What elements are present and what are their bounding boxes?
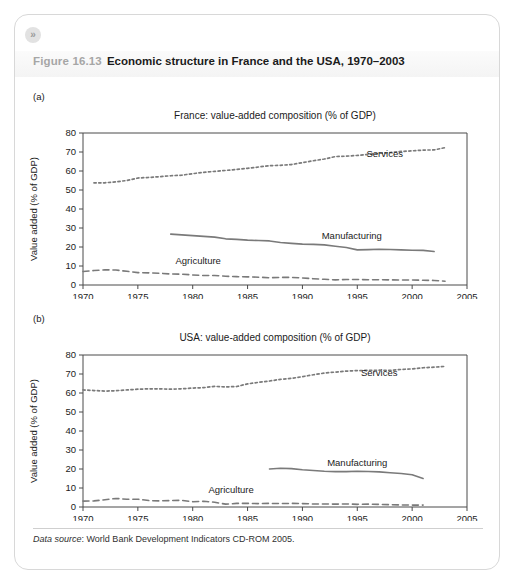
x-tick-label: 1970 — [72, 513, 93, 521]
chart-title: France: value-added composition (% of GD… — [174, 110, 376, 121]
figure-title-text: Economic structure in France and the USA… — [107, 55, 405, 67]
series-line — [83, 498, 423, 505]
y-tick-label: 50 — [65, 184, 76, 195]
x-tick-label: 1985 — [237, 291, 258, 299]
series-label: Manufacturing — [327, 457, 387, 468]
source-note: Data source: World Bank Development Indi… — [33, 534, 294, 544]
plot-frame — [83, 133, 467, 285]
y-tick-label: 70 — [65, 146, 76, 157]
series-label: Services — [366, 148, 403, 159]
chart-svg: USA: value-added composition (% of GDP)0… — [15, 321, 501, 521]
y-tick-label: 20 — [65, 463, 76, 474]
y-tick-label: 60 — [65, 387, 76, 398]
series-label: Agriculture — [175, 255, 220, 266]
series-label: Services — [361, 367, 398, 378]
chart-svg: France: value-added composition (% of GD… — [15, 99, 501, 299]
figure-number: Figure 16.13 — [33, 55, 102, 67]
x-tick-label: 1980 — [182, 291, 203, 299]
series-line — [83, 270, 445, 281]
series-label: Manufacturing — [322, 230, 382, 241]
source-label: Data source — [33, 534, 82, 544]
y-tick-label: 30 — [65, 444, 76, 455]
x-tick-label: 2000 — [402, 513, 423, 521]
x-tick-label: 1995 — [347, 291, 368, 299]
figure-screenshot: » Figure 16.13Economic structure in Fran… — [0, 0, 514, 585]
x-tick-label: 2005 — [456, 291, 477, 299]
x-tick-label: 1985 — [237, 513, 258, 521]
chart-panel-a: France: value-added composition (% of GD… — [15, 99, 501, 303]
x-tick-label: 1975 — [127, 513, 148, 521]
y-tick-label: 80 — [65, 349, 76, 360]
series-line — [171, 234, 434, 251]
y-tick-label: 0 — [71, 501, 76, 512]
y-tick-label: 10 — [65, 482, 76, 493]
chart-panel-b: USA: value-added composition (% of GDP)0… — [15, 321, 501, 525]
figure-caption: Figure 16.13Economic structure in France… — [33, 55, 405, 67]
y-tick-label: 10 — [65, 260, 76, 271]
x-tick-label: 1990 — [292, 513, 313, 521]
y-tick-label: 30 — [65, 222, 76, 233]
y-tick-label: 0 — [71, 279, 76, 290]
x-tick-label: 2000 — [402, 291, 423, 299]
y-axis-title: Value added (% of GDP) — [28, 379, 39, 483]
expand-chevron-icon[interactable]: » — [25, 27, 41, 43]
y-tick-label: 40 — [65, 425, 76, 436]
series-label: Agriculture — [208, 484, 253, 495]
source-divider — [33, 528, 483, 529]
x-tick-label: 1990 — [292, 291, 313, 299]
x-tick-label: 1975 — [127, 291, 148, 299]
series-line — [270, 468, 424, 478]
x-tick-label: 1980 — [182, 513, 203, 521]
source-text: : World Bank Development Indicators CD-R… — [82, 534, 295, 544]
y-tick-label: 20 — [65, 241, 76, 252]
x-tick-label: 1995 — [347, 513, 368, 521]
plot-frame — [83, 355, 467, 507]
y-tick-label: 70 — [65, 368, 76, 379]
y-tick-label: 50 — [65, 406, 76, 417]
y-tick-label: 80 — [65, 127, 76, 138]
chart-title: USA: value-added composition (% of GDP) — [179, 332, 370, 343]
figure-card: » Figure 16.13Economic structure in Fran… — [14, 14, 500, 570]
y-axis-title: Value added (% of GDP) — [28, 157, 39, 261]
y-tick-label: 40 — [65, 203, 76, 214]
y-tick-label: 60 — [65, 165, 76, 176]
x-tick-label: 1970 — [72, 291, 93, 299]
x-tick-label: 2005 — [456, 513, 477, 521]
